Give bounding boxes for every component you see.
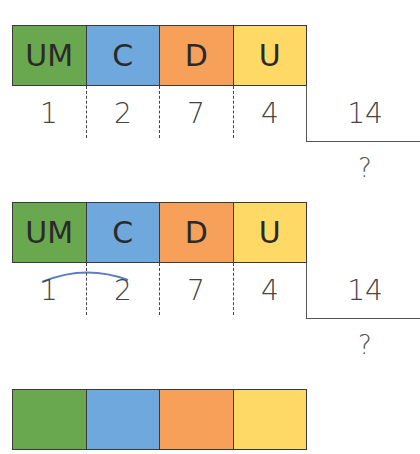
header-d: D xyxy=(160,203,234,262)
quotient: ? xyxy=(320,153,410,183)
dividend-digit: 1 xyxy=(12,274,86,307)
dividend-digit: 7 xyxy=(159,97,233,130)
division-block-3-partial xyxy=(0,389,420,454)
division-bracket-horizontal xyxy=(306,318,420,319)
header-c xyxy=(87,390,161,449)
place-value-header: UM C D U xyxy=(12,202,307,263)
division-bracket-vertical xyxy=(306,86,307,141)
division-bracket-vertical xyxy=(306,263,307,318)
dividend-digit: 4 xyxy=(233,97,307,130)
dividend-digit: 2 xyxy=(86,274,160,307)
header-um: UM xyxy=(13,203,87,262)
division-bracket-horizontal xyxy=(306,141,420,142)
dividend-digit: 7 xyxy=(159,274,233,307)
division-block-2: UM C D U 1 2 7 4 14 ? xyxy=(0,202,420,382)
dividend-digit: 4 xyxy=(233,274,307,307)
header-um xyxy=(13,390,87,449)
divisor: 14 xyxy=(320,274,410,307)
quotient: ? xyxy=(320,330,410,360)
header-um: UM xyxy=(13,26,87,85)
place-value-header: UM C D U xyxy=(12,25,307,86)
header-d xyxy=(160,390,234,449)
dividend-digit: 1 xyxy=(12,97,86,130)
header-u: U xyxy=(234,26,307,85)
header-u xyxy=(234,390,307,449)
header-d: D xyxy=(160,26,234,85)
division-block-1: UM C D U 1 2 7 4 14 ? xyxy=(0,25,420,205)
header-c: C xyxy=(87,203,161,262)
header-c: C xyxy=(87,26,161,85)
header-u: U xyxy=(234,203,307,262)
dividend-digit: 2 xyxy=(86,97,160,130)
place-value-header xyxy=(12,389,307,450)
divisor: 14 xyxy=(320,97,410,130)
